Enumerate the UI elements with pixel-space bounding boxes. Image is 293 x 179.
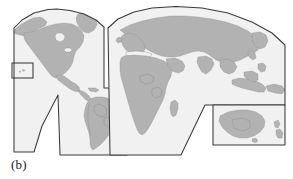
figure-caption-label: (b) <box>11 157 27 173</box>
british-isles-land <box>116 37 122 43</box>
world-map-graphic <box>0 0 293 179</box>
figure-root: (b) <box>0 0 293 179</box>
panel-australia <box>213 105 285 145</box>
great-lakes-water <box>64 48 72 52</box>
hawaii-land-2 <box>19 71 21 73</box>
